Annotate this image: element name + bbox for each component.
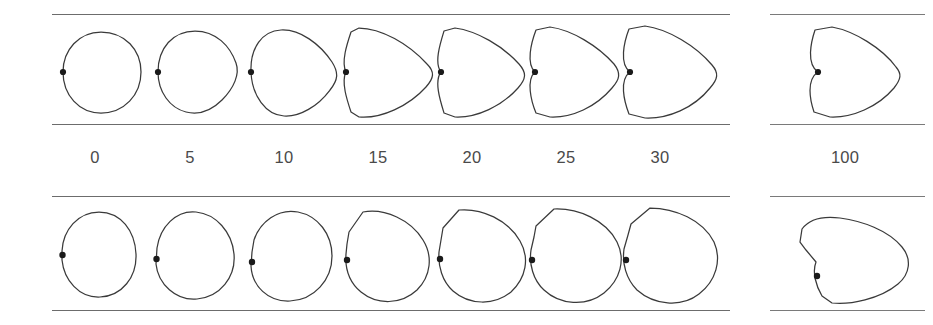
contour-path	[251, 30, 337, 116]
shape-iter-5-bottom	[148, 204, 244, 308]
tick-label-10: 10	[275, 148, 294, 167]
seed-marker	[59, 252, 65, 258]
shape-iter-10-top	[244, 22, 342, 122]
contour-path	[62, 212, 136, 297]
shape-iter-0-top	[55, 22, 147, 122]
shape-iter-15-bottom	[333, 204, 437, 308]
shape-iter-20-bottom	[426, 204, 532, 308]
seed-marker	[60, 69, 66, 75]
shape-iter-100-top	[788, 22, 904, 122]
contour-path	[156, 212, 234, 299]
shape-iter-30-top	[618, 22, 722, 122]
rule-mid1-main	[52, 124, 730, 125]
seed-marker	[529, 257, 535, 263]
tick-label-25: 25	[557, 148, 576, 167]
contour-path	[439, 210, 526, 302]
contour-path	[344, 28, 432, 117]
contour-path	[530, 27, 619, 117]
seed-marker	[438, 69, 444, 75]
contour-path	[438, 28, 525, 117]
contour-path	[623, 26, 716, 118]
contour-path	[800, 217, 908, 303]
tick-label-15: 15	[369, 148, 388, 167]
seed-marker	[153, 256, 159, 262]
tick-label-0: 0	[90, 148, 99, 167]
seed-marker	[532, 69, 538, 75]
seed-marker	[344, 257, 350, 263]
rule-top-right	[770, 14, 925, 15]
iteration-label-row: 0 5 10 15 20 25 30 100	[0, 148, 933, 178]
rule-mid1-right	[770, 124, 925, 125]
contour-path	[158, 31, 237, 113]
rule-top-main	[52, 14, 730, 15]
shape-iter-30-bottom	[612, 204, 722, 308]
bottom-row-shapes	[0, 204, 933, 308]
shape-iter-15-top	[337, 22, 439, 122]
shape-iter-100-bottom	[788, 204, 916, 308]
rule-bottom-right	[770, 310, 925, 311]
seed-marker	[248, 69, 254, 75]
tick-label-5: 5	[185, 148, 194, 167]
contour-path	[531, 209, 622, 303]
contour-path	[624, 208, 718, 303]
shape-iter-25-top	[524, 22, 624, 122]
shape-iter-10-bottom	[240, 204, 340, 308]
contour-path	[810, 27, 900, 117]
seed-marker	[437, 256, 443, 262]
rule-mid2-right	[770, 196, 925, 197]
contour-path	[346, 211, 429, 301]
shape-iter-5-top	[150, 22, 242, 122]
shape-iter-0-bottom	[55, 204, 147, 308]
seed-marker	[627, 69, 633, 75]
shape-evolution-figure: 0 5 10 15 20 25 30 100	[0, 0, 933, 325]
tick-label-100: 100	[831, 148, 859, 167]
seed-marker	[623, 257, 629, 263]
tick-label-30: 30	[651, 148, 670, 167]
tick-label-20: 20	[463, 148, 482, 167]
shape-iter-20-top	[431, 22, 531, 122]
shape-iter-25-bottom	[518, 204, 626, 308]
seed-marker	[155, 69, 161, 75]
seed-marker	[249, 259, 255, 265]
top-row-shapes	[0, 22, 933, 122]
seed-marker	[343, 69, 349, 75]
rule-bottom-main	[52, 310, 730, 311]
contour-path	[63, 32, 141, 113]
contour-path	[251, 211, 332, 301]
rule-mid2-main	[52, 196, 730, 197]
seed-marker	[814, 273, 820, 279]
seed-marker	[815, 69, 821, 75]
